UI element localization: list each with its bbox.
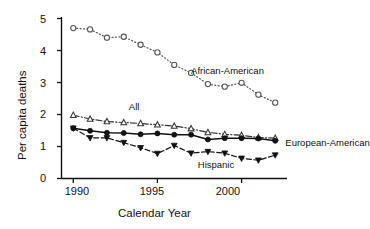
y-tick-label: 5 <box>24 13 46 25</box>
series-label-african-american: African-American <box>191 65 264 76</box>
x-axis-title: Calendar Year <box>118 207 191 219</box>
series-label-european-american: European-American <box>285 137 370 148</box>
x-tick-label: 1990 <box>54 185 100 197</box>
y-tick-label: 4 <box>24 45 46 57</box>
y-axis-title: Per capita deaths <box>16 70 28 160</box>
series-label-all: All <box>129 101 140 112</box>
x-tick-label: 1995 <box>129 185 175 197</box>
data-series-layer <box>70 26 278 164</box>
series-label-hispanic: Hispanic <box>198 159 234 170</box>
y-tick-label: 0 <box>24 172 46 184</box>
axis-lines <box>62 17 288 179</box>
x-tick-label: 2000 <box>205 185 251 197</box>
